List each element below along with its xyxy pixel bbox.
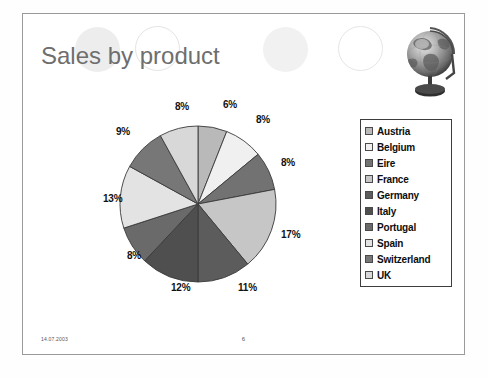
pie-value-label: 6% xyxy=(223,99,237,110)
presentation-slide: Sales by product xyxy=(22,13,465,355)
legend-swatch-icon xyxy=(365,143,373,151)
legend-item-label: Switzerland xyxy=(377,254,430,265)
legend-item: UK xyxy=(365,267,448,283)
legend-item: Italy xyxy=(365,203,448,219)
legend-item-label: Spain xyxy=(377,238,403,249)
legend-item-label: France xyxy=(377,174,409,185)
pie-value-label: 8% xyxy=(175,101,189,112)
pie-value-label: 8% xyxy=(127,250,141,261)
legend-item-label: Germany xyxy=(377,190,419,201)
legend-swatch-icon xyxy=(365,191,373,199)
slide-title: Sales by product xyxy=(41,42,220,70)
pie-value-label: 17% xyxy=(281,229,300,240)
pie-value-label: 9% xyxy=(116,126,130,137)
globe-icon xyxy=(402,21,460,105)
legend-item: Switzerland xyxy=(365,251,448,267)
legend-swatch-icon xyxy=(365,159,373,167)
legend-item-label: Austria xyxy=(377,126,410,137)
decorative-circle-outline-2 xyxy=(338,26,383,71)
legend-item-label: Eire xyxy=(377,158,395,169)
legend-item: Eire xyxy=(365,155,448,171)
chart-legend: AustriaBelgiumEireFranceGermanyItalyPort… xyxy=(360,119,452,287)
legend-item-label: UK xyxy=(377,270,391,281)
legend-item: Portugal xyxy=(365,219,448,235)
legend-swatch-icon xyxy=(365,127,373,135)
legend-item: Belgium xyxy=(365,139,448,155)
legend-item: Austria xyxy=(365,123,448,139)
footer-page-number: 6 xyxy=(23,336,464,342)
pie-value-label: 8% xyxy=(281,157,295,168)
legend-item-label: Portugal xyxy=(377,222,416,233)
legend-swatch-icon xyxy=(365,271,373,279)
legend-swatch-icon xyxy=(365,223,373,231)
pie-value-label: 8% xyxy=(256,114,270,125)
legend-swatch-icon xyxy=(365,175,373,183)
scanned-page: Sales by product xyxy=(0,0,488,378)
pie-value-label: 13% xyxy=(103,193,122,204)
decorative-circle-filled-2 xyxy=(263,27,308,72)
legend-swatch-icon xyxy=(365,239,373,247)
legend-swatch-icon xyxy=(365,255,373,263)
legend-item: Spain xyxy=(365,235,448,251)
legend-item: Germany xyxy=(365,187,448,203)
pie-value-label: 12% xyxy=(171,282,190,293)
legend-swatch-icon xyxy=(365,207,373,215)
chart-area: 6%8%8%17%11%12%8%13%9%8% AustriaBelgiumE… xyxy=(23,99,465,314)
legend-item: France xyxy=(365,171,448,187)
pie-chart xyxy=(118,124,278,284)
pie-value-label: 11% xyxy=(238,282,257,293)
pie-chart-svg xyxy=(118,124,278,284)
legend-item-label: Belgium xyxy=(377,142,415,153)
legend-item-label: Italy xyxy=(377,206,396,217)
